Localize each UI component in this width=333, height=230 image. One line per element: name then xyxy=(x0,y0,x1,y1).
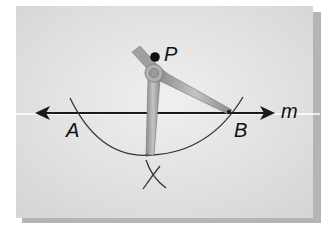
label-p: P xyxy=(164,44,177,64)
label-m: m xyxy=(281,101,298,121)
label-b: B xyxy=(234,120,247,140)
construction-diagram: P A B m xyxy=(0,0,333,230)
label-a: A xyxy=(66,120,79,140)
point-p-dot xyxy=(150,52,160,62)
